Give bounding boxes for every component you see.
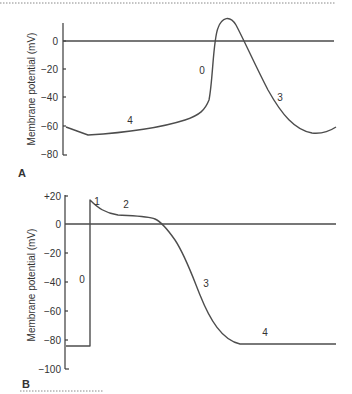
panel-b-label: B xyxy=(22,378,30,390)
panel-b-tick-100: −100 xyxy=(38,364,61,375)
panel-a-label: A xyxy=(18,167,26,179)
panel-b-action-potential-curve xyxy=(66,200,336,346)
panel-b-tick-plus20: +20 xyxy=(44,191,61,202)
panel-a-phase-0: 0 xyxy=(199,65,205,76)
panel-b-tick-20: −20 xyxy=(44,248,61,259)
panel-a-phase-4: 4 xyxy=(127,115,133,126)
panel-b-phase-2: 2 xyxy=(123,199,129,210)
panel-b-tick-40: −40 xyxy=(44,277,61,288)
panel-a-phase-3: 3 xyxy=(277,92,283,103)
panel-b-tick-60: −60 xyxy=(44,306,61,317)
panel-a-action-potential-curve xyxy=(66,19,336,135)
panel-a-tick-20: −20 xyxy=(41,64,58,75)
panel-b-phase-3: 3 xyxy=(203,278,209,289)
panel-b: Membrane potential (mV) +20 0 −20 −40 −6… xyxy=(22,191,336,390)
panel-a-tick-0: 0 xyxy=(52,36,58,47)
panel-b-phase-0: 0 xyxy=(79,274,85,285)
panel-b-ylabel: Membrane potential (mV) xyxy=(26,229,37,342)
panel-a-ylabel: Membrane potential (mV) xyxy=(26,33,37,146)
figure: Membrane potential (mV) 0 −20 −40 −60 −8… xyxy=(0,0,352,394)
panel-b-tick-80: −80 xyxy=(44,335,61,346)
panel-b-phase-4: 4 xyxy=(262,327,268,338)
panel-a-tick-40: −40 xyxy=(41,92,58,103)
panel-a-tick-60: −60 xyxy=(41,121,58,132)
panel-b-phase-1: 1 xyxy=(94,196,100,207)
panel-b-tick-0: 0 xyxy=(55,219,61,230)
panel-a-tick-80: −80 xyxy=(41,149,58,160)
panel-a: Membrane potential (mV) 0 −20 −40 −60 −8… xyxy=(18,19,336,179)
